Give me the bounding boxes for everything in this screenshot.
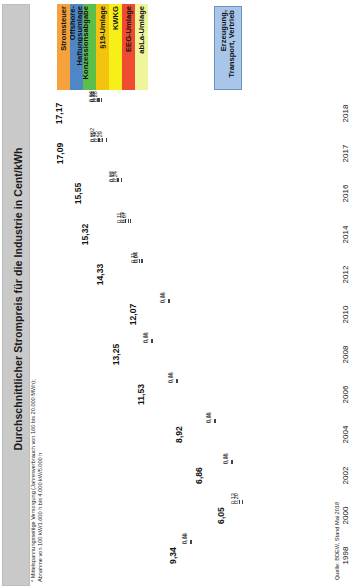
legend-label-erzeugung: Erzeugung, Transport, Vertrieb (215, 7, 241, 89)
legend-label-eeg-umlage: EEG-Umlage (122, 4, 135, 90)
chart-page: Durchschnittlicher Strompreis für die In… (0, 0, 355, 588)
callout-group: 0,110,05 (215, 442, 325, 464)
bar-total-label: 17,17 (44, 102, 74, 125)
bar-total-label: 15,55 (63, 182, 93, 205)
callout-label: 0,08 (188, 522, 195, 544)
legend-item-offshore-haftungsumlage: Offshore-Haftungsumlage (70, 4, 83, 90)
legend-item-kwkg: KWKG (109, 4, 122, 90)
year-label-2018: 2018 (333, 102, 355, 125)
year-label-2006: 2006 (333, 383, 355, 406)
callout-group: 0,110,230,07 (101, 201, 325, 223)
bar-total-label: 6,86 (184, 464, 214, 487)
legend-label-abla-umlage: abLa-Umlage (135, 4, 148, 90)
callout-group: 0,110,05 (157, 361, 325, 383)
footnote-line-2: Abnahme von 100 kW/1.600 h bis 4.000 kW/… (37, 6, 44, 582)
legend-item-konzessionsabgabe: Konzessionsabgabe (83, 4, 96, 90)
footnote-line-1: * Mittelspannungsseitige Versorgung (Jah… (30, 6, 37, 582)
bar-total-label: 9,34 (158, 544, 188, 567)
legend-item-erzeugung-transport-vertrieb: Erzeugung, Transport, Vertrieb (214, 6, 242, 90)
legend-item-abla-umlage: abLa-Umlage (135, 4, 148, 90)
callout-group: 0,110,05 (195, 401, 325, 423)
bar-total-label: 13,25 (101, 343, 131, 366)
year-label-2004: 2004 (333, 423, 355, 446)
callout-group: 0,110,070,04 (116, 241, 325, 263)
legend-item-stromsteuer: Stromsteuer (57, 4, 70, 90)
year-label-2000: 2000 (333, 504, 355, 527)
legend-label-konzessionsabgabe: Konzessionsabgabe (83, 4, 96, 90)
page-title: Durchschnittlicher Strompreis für die In… (5, 9, 31, 588)
legend-item-eeg-umlage: EEG-Umlage (122, 4, 135, 90)
bar-total-label: 8,92 (164, 423, 194, 446)
callout-label: 0,05 (212, 401, 219, 423)
callout-group: 0,0020,110,250,29 (76, 120, 325, 142)
callout-label: 0,29 (103, 120, 110, 142)
chart-plot-area: 17,170,040,110,240,26201817,090,0020,110… (57, 96, 325, 578)
callout-label: 0,20 (239, 482, 246, 504)
legend-label-kwkg: KWKG (109, 4, 122, 90)
legend: StromsteuerOffshore-HaftungsumlageKonzes… (57, 4, 148, 90)
legend-label-stromsteuer: Stromsteuer (57, 4, 70, 90)
title-band: Durchschnittlicher Strompreis für die In… (2, 4, 30, 586)
legend-label-offshore-haftungsumlage: Offshore-Haftungsumlage (70, 4, 83, 90)
year-label-2017: 2017 (333, 142, 355, 165)
callout-group: 0,040,110,240,26 (75, 80, 325, 102)
bar-total-label: 11,53 (126, 383, 156, 406)
callout-group: 0,110,08 (189, 522, 325, 544)
year-label-2014: 2014 (333, 223, 355, 246)
callout-label: 0,05 (174, 361, 181, 383)
callout-label: 0,04 (139, 241, 146, 263)
bar-total-label: 17,09 (45, 142, 75, 165)
callout-group: 0,110,05 (132, 321, 325, 343)
callout-label: 0,05 (166, 281, 173, 303)
legend-item-paragraph19-umlage: §19-Umlage (96, 4, 109, 90)
year-label-2002: 2002 (333, 464, 355, 487)
callout-group: 0,130,20 (237, 482, 325, 504)
callout-label: 0,05 (229, 442, 236, 464)
legend-label-paragraph19-umlage: §19-Umlage (96, 4, 109, 90)
year-label-2012: 2012 (333, 263, 355, 286)
year-label-2008: 2008 (333, 343, 355, 366)
bar-total-label: 14,33 (85, 263, 115, 286)
callout-label: 0,24 (118, 160, 125, 182)
callout-label: 0,26 (98, 80, 105, 102)
year-label-2010: 2010 (333, 303, 355, 326)
callout-group: 0,030,110,24 (94, 160, 325, 182)
footnote: * Mittelspannungsseitige Versorgung (Jah… (30, 6, 54, 582)
callout-label: 0,07 (127, 201, 134, 223)
callout-group: 0,110,05 (149, 281, 325, 303)
callout-label: 0,05 (149, 321, 156, 343)
year-label-2016: 2016 (333, 182, 355, 205)
stacked-bar-1998 (189, 544, 325, 567)
year-label-1998: 1998 (333, 544, 355, 567)
bar-total-label: 15,32 (70, 223, 100, 246)
